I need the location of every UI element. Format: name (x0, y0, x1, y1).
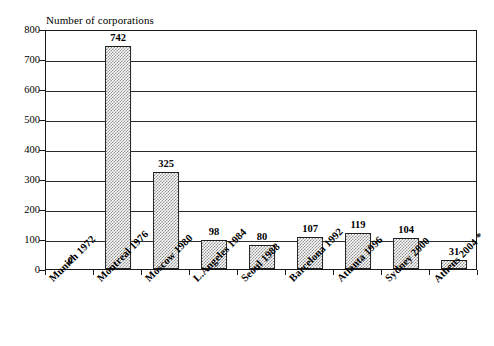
y-axis-tick-label: 0 (0, 265, 40, 275)
y-axis-tick-label: 500 (0, 115, 40, 125)
bar-slot: 0 (46, 31, 94, 269)
bar-value-label: 107 (286, 223, 334, 234)
y-axis-title: Number of corporations (46, 14, 154, 27)
x-axis-tick-mark (45, 270, 46, 275)
x-axis-tick-mark (237, 270, 238, 275)
bar-slot: 98 (190, 31, 238, 269)
bar-slot: 325 (142, 31, 190, 269)
bar-value-label: 119 (334, 219, 382, 230)
x-axis-tick-mark (141, 270, 142, 275)
y-axis-tick-label: 100 (0, 235, 40, 245)
bar[interactable] (105, 46, 131, 269)
x-axis-tick-mark (189, 270, 190, 275)
footnote-asterisk: * (473, 230, 485, 242)
x-axis-tick-mark (381, 270, 382, 275)
y-axis-tick-label: 300 (0, 175, 40, 185)
plot-area: 0742325988010711910431 (45, 30, 477, 270)
x-axis-tick-mark (429, 270, 430, 275)
bar-chart-figure: Number of corporations 01002003004005006… (0, 0, 494, 346)
y-axis-tick-label: 400 (0, 145, 40, 155)
y-axis-tick-label: 800 (0, 25, 40, 35)
bar-value-label: 104 (382, 224, 430, 235)
bar-value-label: 742 (94, 32, 142, 43)
x-axis-tick-mark (477, 270, 478, 275)
y-axis-tick-label: 200 (0, 205, 40, 215)
bar-value-label: 325 (142, 158, 190, 169)
x-axis-tick-mark (285, 270, 286, 275)
bar-slot: 742 (94, 31, 142, 269)
bar-slot: 107 (286, 31, 334, 269)
bar-slot: 104 (382, 31, 430, 269)
x-axis-tick-mark (333, 270, 334, 275)
y-axis-tick-label: 700 (0, 55, 40, 65)
bar-slot: 31 (430, 31, 478, 269)
y-axis-tick-label: 600 (0, 85, 40, 95)
x-axis-tick-mark (93, 270, 94, 275)
